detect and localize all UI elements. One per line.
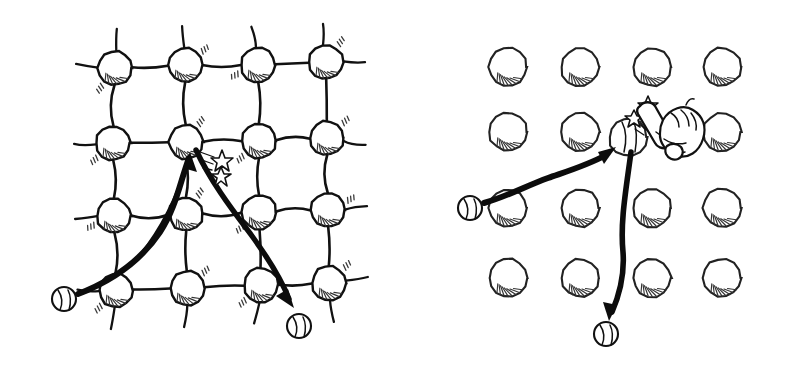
free-atom	[490, 259, 528, 297]
fist-icon	[660, 99, 705, 160]
free-atom	[703, 189, 742, 227]
free-atom	[562, 48, 600, 86]
free-atom	[561, 113, 600, 151]
free-atom	[633, 259, 671, 297]
free-atom	[634, 189, 671, 227]
outgoing-ball-trajectory	[603, 152, 631, 321]
incoming-ball-trajectory	[484, 147, 616, 203]
free-atom	[488, 48, 527, 86]
free-atom	[489, 113, 527, 151]
figure-canvas	[0, 0, 786, 368]
free-atom	[562, 259, 599, 297]
free-atoms	[488, 48, 741, 298]
free-atom	[634, 49, 672, 87]
free-lattice-panel	[0, 0, 786, 368]
outgoing-ball	[594, 322, 618, 346]
free-atom	[562, 190, 600, 227]
free-atom	[703, 259, 742, 297]
incoming-ball	[458, 196, 482, 220]
free-atom	[703, 113, 742, 151]
free-atom	[704, 48, 742, 86]
